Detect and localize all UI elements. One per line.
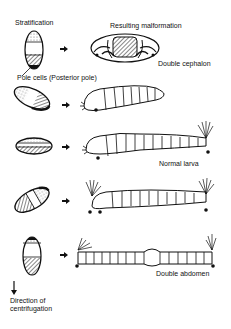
egg-stratification-3	[16, 138, 52, 155]
diagram-figure	[0, 0, 231, 329]
normal-larva-figure	[82, 121, 213, 160]
egg-stratification-4	[10, 181, 55, 218]
egg-stratification-1	[22, 30, 44, 76]
egg-stratification-2	[10, 80, 55, 115]
arrow-icon	[62, 198, 70, 204]
double-abdomen-figure	[75, 234, 216, 268]
egg-stratification-5	[22, 236, 42, 276]
down-arrow-icon	[11, 281, 17, 295]
spiracle-hairs-icon	[86, 178, 214, 196]
short-larva-figure	[80, 86, 164, 112]
arrow-icon	[62, 144, 70, 150]
spiracle-hairs-icon	[78, 234, 216, 250]
spiracle-hairs-icon	[198, 121, 213, 138]
arrow-icon	[60, 252, 68, 258]
arrow-icon	[62, 102, 70, 108]
partial-double-abdomen-figure	[86, 178, 214, 214]
arrow-icon	[60, 46, 68, 52]
double-cephalon-figure	[91, 34, 159, 62]
